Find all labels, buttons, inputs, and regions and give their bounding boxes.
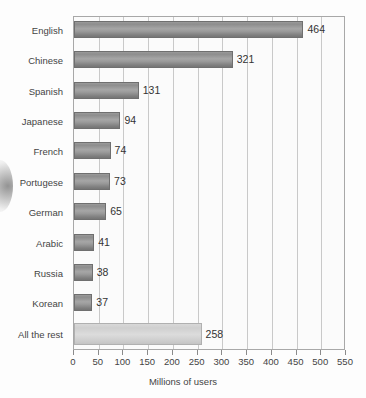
x-tick-label: 250 (189, 356, 205, 367)
bar-value-label: 74 (111, 141, 127, 160)
category-label: Russia (34, 259, 63, 289)
x-tick-label: 400 (263, 356, 279, 367)
bar-row: 65 (74, 199, 344, 229)
x-tick (147, 350, 148, 355)
bar-value-label: 41 (94, 233, 110, 252)
bar-value-label: 38 (93, 263, 109, 282)
bar (74, 142, 111, 159)
category-label: French (33, 137, 63, 167)
bar-value-label: 65 (106, 202, 122, 221)
bar-row: 131 (74, 78, 344, 108)
x-tick (122, 350, 123, 355)
bar (74, 294, 92, 311)
x-tick-labels: 050100150200250300350400450500550 (0, 356, 366, 370)
bar (74, 203, 106, 220)
x-tick (172, 350, 173, 355)
category-label: German (29, 198, 63, 228)
x-tick-label: 200 (164, 356, 180, 367)
x-tick (271, 350, 272, 355)
x-tick-label: 50 (92, 356, 103, 367)
category-label: English (32, 16, 63, 46)
x-tick (197, 350, 198, 355)
category-label: Portugese (20, 168, 63, 198)
bar-value-label: 73 (110, 172, 126, 191)
x-tick-label: 300 (213, 356, 229, 367)
bar-row: 94 (74, 108, 344, 138)
x-tick (246, 350, 247, 355)
bar-value-label: 464 (303, 20, 325, 39)
bar (74, 264, 93, 281)
x-tick (296, 350, 297, 355)
bar-row: 464 (74, 17, 344, 47)
bar-value-label: 258 (202, 323, 224, 345)
category-label: Arabic (36, 229, 63, 259)
bar-value-label: 131 (139, 81, 161, 100)
bar-row: 321 (74, 47, 344, 77)
bar (74, 112, 120, 129)
x-tick (221, 350, 222, 355)
x-axis-title: Millions of users (0, 376, 366, 387)
x-tick-label: 0 (70, 356, 75, 367)
x-tick-label: 100 (115, 356, 131, 367)
bar (74, 173, 110, 190)
x-tick-label: 450 (288, 356, 304, 367)
x-tick-label: 350 (238, 356, 254, 367)
bar-value-label: 37 (92, 293, 108, 312)
bar-row: 38 (74, 260, 344, 290)
bar-row: 73 (74, 169, 344, 199)
bar-row: 74 (74, 138, 344, 168)
category-axis: EnglishChineseSpanishJapaneseFrenchPortu… (0, 16, 68, 350)
bar-row: 37 (74, 290, 344, 320)
bar-chart: EnglishChineseSpanishJapaneseFrenchPortu… (0, 0, 366, 398)
bar (74, 234, 94, 251)
bar (74, 82, 139, 99)
x-tick-label: 550 (337, 356, 353, 367)
x-tick-label: 500 (312, 356, 328, 367)
bar (74, 323, 202, 345)
bar (74, 51, 233, 68)
category-label: Korean (32, 289, 63, 319)
x-tick (345, 350, 346, 355)
category-label: Spanish (29, 77, 63, 107)
bar-row: 258 (74, 321, 344, 351)
category-label: Chinese (28, 46, 63, 76)
bar-value-label: 94 (120, 111, 136, 130)
category-label: All the rest (18, 320, 63, 350)
x-tick (98, 350, 99, 355)
bar-row: 41 (74, 230, 344, 260)
bar (74, 21, 303, 38)
plot-area: 46432113194747365413837258 (73, 16, 345, 350)
bar-value-label: 321 (233, 50, 255, 69)
category-label: Japanese (22, 107, 63, 137)
x-tick (73, 350, 74, 355)
x-tick (320, 350, 321, 355)
x-tick-label: 150 (139, 356, 155, 367)
